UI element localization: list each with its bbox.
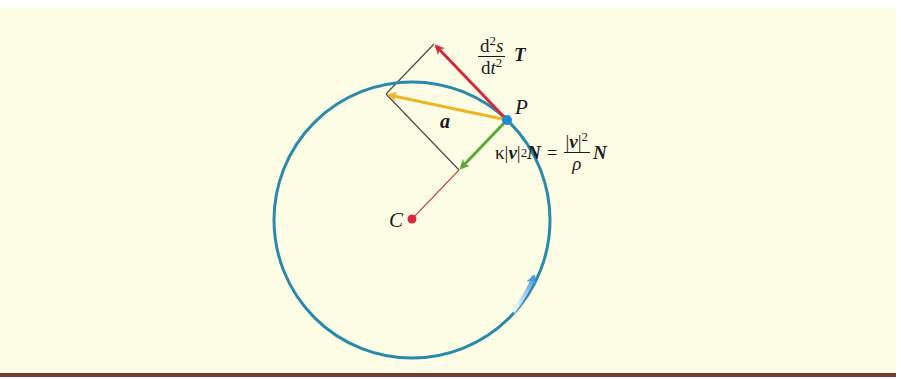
- center-C-marker: [408, 215, 417, 224]
- tangential-label: d2s dt2 T: [478, 36, 526, 77]
- kappa-symbol: κ: [495, 143, 505, 162]
- radius-line: [412, 170, 459, 219]
- unit-normal-N: N: [527, 143, 541, 162]
- direction-arrow: [513, 276, 534, 312]
- fraction-numerator: |v|2: [564, 132, 591, 153]
- acceleration-label: a: [440, 111, 450, 131]
- curvature-diagram: [0, 0, 901, 380]
- unit-tangent-T: T: [514, 44, 526, 65]
- normal-fraction: |v|2 ρ: [564, 132, 591, 173]
- fraction-numerator: d2s: [478, 36, 505, 57]
- fraction-denominator: dt2: [481, 57, 502, 77]
- point-P-label: P: [515, 97, 528, 118]
- velocity-v: v: [508, 143, 516, 162]
- fraction-denominator-rho: ρ: [572, 153, 581, 173]
- unit-normal-N: N: [593, 143, 607, 162]
- point-C-label: C: [389, 210, 403, 231]
- normal-label: κ |v|2 N = |v|2 ρ N: [495, 132, 607, 173]
- tangential-fraction: d2s dt2: [478, 36, 505, 77]
- equals-sign: =: [547, 143, 558, 162]
- point-P-marker: [502, 115, 512, 125]
